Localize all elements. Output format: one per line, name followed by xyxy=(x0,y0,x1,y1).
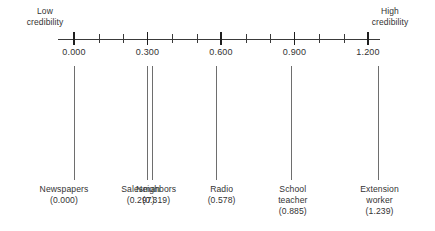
marker-line xyxy=(74,66,75,180)
axis-tick-minor xyxy=(319,34,320,43)
number-line-axis xyxy=(58,39,380,40)
axis-high-credibility-annotation: High credibility xyxy=(351,6,429,27)
data-point-label: School teacher (0.885) xyxy=(251,184,335,217)
axis-tick-minor xyxy=(123,34,124,43)
axis-low-credibility-annotation: Low credibility xyxy=(6,6,84,27)
marker-line xyxy=(147,66,148,180)
marker-line xyxy=(378,66,379,180)
axis-tick-label: 0.600 xyxy=(191,47,251,57)
axis-tick-label: 0.300 xyxy=(118,47,178,57)
axis-tick-minor xyxy=(344,34,345,43)
axis-tick-major xyxy=(367,32,369,45)
axis-tick-minor xyxy=(246,34,247,43)
credibility-number-line-figure: Low credibility High credibility 0.0000.… xyxy=(0,0,435,231)
axis-tick-minor xyxy=(270,34,271,43)
data-point-label: Newspapers (0.000) xyxy=(22,184,106,206)
axis-tick-minor xyxy=(99,34,100,43)
marker-line xyxy=(152,66,153,180)
axis-tick-major xyxy=(147,32,149,45)
axis-tick-label: 1.200 xyxy=(338,47,398,57)
axis-tick-label: 0.900 xyxy=(265,47,325,57)
data-point-label: Extension worker (1.239) xyxy=(338,184,422,217)
axis-tick-major xyxy=(294,32,296,45)
axis-tick-minor xyxy=(197,34,198,43)
axis-tick-label: 0.000 xyxy=(44,47,104,57)
marker-line xyxy=(291,66,292,180)
axis-tick-minor xyxy=(172,34,173,43)
marker-line xyxy=(216,66,217,180)
axis-tick-major xyxy=(73,32,75,45)
axis-tick-major xyxy=(220,32,222,45)
